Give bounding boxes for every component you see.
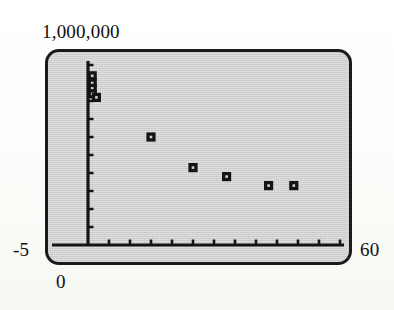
data-point-marker — [188, 163, 197, 172]
marker-center — [95, 96, 98, 99]
y-axis-min-label: -5 — [13, 240, 29, 259]
marker-center — [267, 184, 270, 187]
data-point-marker — [222, 172, 231, 181]
data-point-marker — [92, 93, 101, 102]
marker-center — [293, 184, 296, 187]
marker-center — [225, 175, 228, 178]
data-point-marker — [264, 181, 273, 190]
data-point-marker — [146, 132, 155, 141]
marker-center — [91, 74, 94, 77]
data-point-marker — [289, 181, 298, 190]
x-axis-max-label: 60 — [360, 240, 379, 259]
plot-canvas — [48, 52, 349, 262]
marker-center — [150, 136, 153, 139]
plot-area — [48, 52, 349, 262]
x-axis-min-label: 0 — [56, 272, 66, 291]
y-axis-max-label: 1,000,000 — [42, 22, 120, 41]
calculator-screen — [45, 49, 352, 265]
marker-center — [192, 166, 195, 169]
data-points-group — [88, 71, 299, 190]
scatter-plot-figure: 1,000,000 -5 0 60 — [0, 0, 394, 310]
